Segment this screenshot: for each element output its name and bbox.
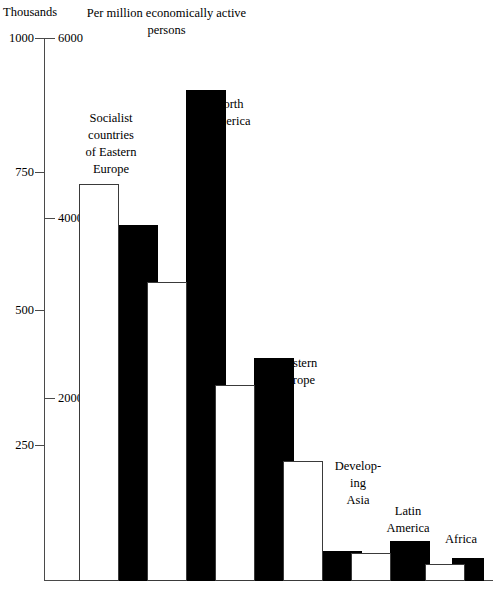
group-label-africa: Africa <box>430 531 492 548</box>
tick-mark-left-750 <box>35 172 45 173</box>
left-axis-title: Thousands <box>3 5 57 20</box>
group-label-western-europe: Western Europe <box>258 355 336 389</box>
tick-mark-left-250 <box>35 445 45 446</box>
bar-thousands-developing-asia <box>283 461 323 581</box>
bar-thousands-latin-america <box>351 553 391 581</box>
group-label-socialist-eastern-europe: Socialist countries of Eastern Europe <box>72 110 150 178</box>
bar-permillion-latin-america <box>390 541 430 581</box>
tick-label-left-500: 500 <box>0 303 34 318</box>
bar-chart: Thousands Per million economically activ… <box>0 0 497 601</box>
tick-label-left-250: 250 <box>0 438 34 453</box>
right-axis-title: Per million economically active persons <box>79 5 254 39</box>
tick-mark-left-500 <box>35 310 45 311</box>
group-label-developing-asia: Develop- ing Asia <box>322 458 394 509</box>
tick-mark-left-1000 <box>35 38 45 39</box>
tick-mark-right-4000 <box>45 218 55 219</box>
tick-label-left-1000: 1000 <box>0 31 34 46</box>
tick-label-right-6000: 6000 <box>58 31 83 46</box>
group-label-north-america: North America <box>190 96 268 130</box>
tick-mark-right-6000 <box>45 38 55 39</box>
bar-thousands-africa <box>425 564 465 581</box>
tick-label-left-750: 750 <box>0 165 34 180</box>
bar-thousands-socialist-eastern-europe <box>79 184 119 581</box>
bar-thousands-western-europe <box>215 385 255 581</box>
bar-thousands-north-america <box>147 282 187 581</box>
tick-mark-right-2000 <box>45 398 55 399</box>
